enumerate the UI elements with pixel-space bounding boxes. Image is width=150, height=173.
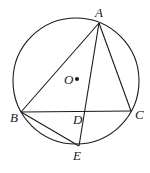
center-point-o bbox=[75, 77, 79, 81]
label-o: O bbox=[64, 72, 74, 87]
label-b: B bbox=[10, 110, 18, 125]
label-e: E bbox=[72, 148, 81, 163]
segment-be bbox=[21, 112, 79, 146]
label-a: A bbox=[94, 5, 103, 20]
geometry-diagram: A B C D E O bbox=[0, 0, 150, 173]
segment-ab bbox=[21, 23, 99, 112]
label-d: D bbox=[72, 112, 83, 127]
segment-ae bbox=[79, 23, 99, 146]
segment-ac bbox=[99, 23, 131, 111]
label-c: C bbox=[135, 107, 144, 122]
